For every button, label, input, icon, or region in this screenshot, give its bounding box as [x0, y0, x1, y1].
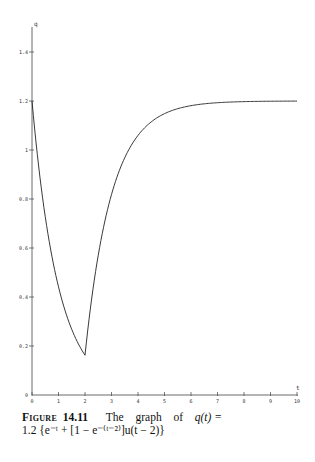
y-tick-label: 1.4: [19, 49, 28, 55]
axes: [32, 27, 298, 395]
x-tick-label: 4: [136, 398, 139, 404]
caption-word-1: The: [106, 411, 124, 424]
y-tick-label: 0.8: [19, 196, 28, 202]
x-tick-label: 10: [294, 398, 300, 404]
x-tick-label: 1: [57, 398, 60, 404]
y-axis-label: q: [34, 20, 38, 28]
y-tick-label: 0.4: [19, 294, 28, 300]
x-tick-label: 0: [30, 398, 33, 404]
x-tick-label: 5: [163, 398, 166, 404]
x-tick-label: 2: [83, 398, 86, 404]
caption-formula: 1.2 {e⁻ᵗ + [1 − e⁻⁽ᵗ⁻²⁾]u(t − 2)}: [22, 424, 312, 437]
figure-label: Figure: [22, 411, 57, 423]
caption-formula-lhs: q(t) =: [195, 411, 222, 424]
figure-number: 14.11: [63, 411, 88, 423]
y-tick-label: 1: [25, 147, 28, 153]
chart: 00.20.40.60.811.21.4 012345678910 q t: [0, 0, 315, 410]
x-axis-label: t: [296, 384, 300, 391]
y-tick-label: 0.2: [19, 343, 28, 349]
x-tick-label: 7: [216, 398, 219, 404]
x-tick-label: 9: [269, 398, 272, 404]
figure-caption: Figure 14.11 The graph of q(t) = 1.2 {e⁻…: [22, 411, 312, 437]
x-tick-label: 3: [110, 398, 113, 404]
y-tick-label: 0: [25, 392, 28, 398]
caption-word-3: of: [173, 411, 183, 424]
q-curve-line: [32, 101, 297, 355]
y-tick-label: 0.6: [19, 245, 28, 251]
x-tick-label: 8: [242, 398, 245, 404]
caption-word-2: graph: [135, 411, 161, 424]
x-tick-label: 6: [189, 398, 192, 404]
x-ticks: 012345678910: [30, 392, 300, 404]
caption-line-1: Figure 14.11 The graph of q(t) =: [22, 411, 222, 424]
y-tick-label: 1.2: [19, 98, 28, 104]
